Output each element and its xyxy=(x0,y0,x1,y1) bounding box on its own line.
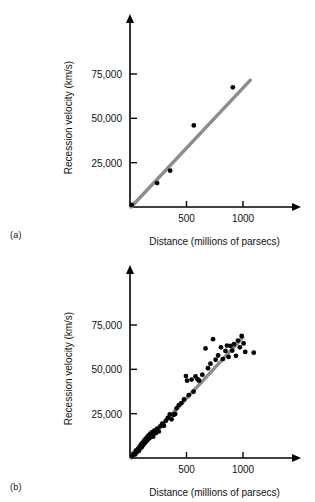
data-point xyxy=(230,85,235,90)
data-point xyxy=(168,168,173,173)
y-axis-arrow xyxy=(126,14,134,23)
y-tick-label: 25,000 xyxy=(91,409,122,420)
data-point xyxy=(223,348,228,353)
y-tick-label: 50,000 xyxy=(91,364,122,375)
data-point xyxy=(197,378,202,383)
x-tick-label: 500 xyxy=(178,213,195,224)
x-axis-arrow xyxy=(292,454,301,462)
data-point xyxy=(243,350,248,355)
data-point xyxy=(185,378,190,383)
trend-line xyxy=(131,80,250,207)
data-point xyxy=(191,123,196,128)
hubble-diagram-b: 500100025,00050,00075,000Distance (milli… xyxy=(0,251,315,502)
data-point xyxy=(251,350,256,355)
data-point xyxy=(234,353,239,358)
data-point xyxy=(216,353,221,358)
x-tick-label: 1000 xyxy=(232,464,255,475)
data-point xyxy=(232,342,237,347)
data-point xyxy=(219,345,224,350)
y-tick-label: 25,000 xyxy=(91,158,122,169)
panel-a-label: (a) xyxy=(10,230,22,240)
data-point xyxy=(226,355,231,360)
data-point xyxy=(129,202,134,207)
data-point xyxy=(206,366,211,371)
data-point xyxy=(182,397,187,402)
data-point xyxy=(184,374,189,379)
data-point xyxy=(208,361,213,366)
x-axis-title: Distance (millions of parsecs) xyxy=(149,487,280,498)
data-point xyxy=(236,338,241,343)
y-axis-title: Recession velocity (km/s) xyxy=(63,61,74,174)
data-point xyxy=(237,345,242,350)
panel-a: 500100025,00050,00075,000Distance (milli… xyxy=(0,0,315,251)
x-axis-arrow xyxy=(292,203,301,211)
x-tick-label: 1000 xyxy=(232,213,255,224)
data-point xyxy=(173,412,178,417)
y-axis-title: Recession velocity (km/s) xyxy=(63,312,74,425)
data-point xyxy=(211,337,216,342)
data-point xyxy=(169,417,174,422)
data-point xyxy=(162,423,167,428)
panel-b: 500100025,00050,00075,000Distance (milli… xyxy=(0,251,315,502)
data-point xyxy=(203,346,208,351)
data-point xyxy=(213,357,218,362)
y-tick-label: 50,000 xyxy=(91,113,122,124)
data-point xyxy=(189,377,194,382)
y-tick-label: 75,000 xyxy=(91,320,122,331)
data-point xyxy=(156,429,161,434)
x-axis-title: Distance (millions of parsecs) xyxy=(149,236,280,247)
data-point xyxy=(155,181,160,186)
data-point xyxy=(186,393,191,398)
data-point xyxy=(191,389,196,394)
data-point xyxy=(200,372,205,377)
data-point xyxy=(241,341,246,346)
x-tick-label: 500 xyxy=(178,464,195,475)
data-point xyxy=(220,357,225,362)
panel-b-label: (b) xyxy=(10,482,22,492)
data-point xyxy=(230,348,235,353)
hubble-diagram-a: 500100025,00050,00075,000Distance (milli… xyxy=(0,0,315,251)
data-point xyxy=(239,334,244,339)
y-axis-arrow xyxy=(126,265,134,274)
y-tick-label: 75,000 xyxy=(91,69,122,80)
